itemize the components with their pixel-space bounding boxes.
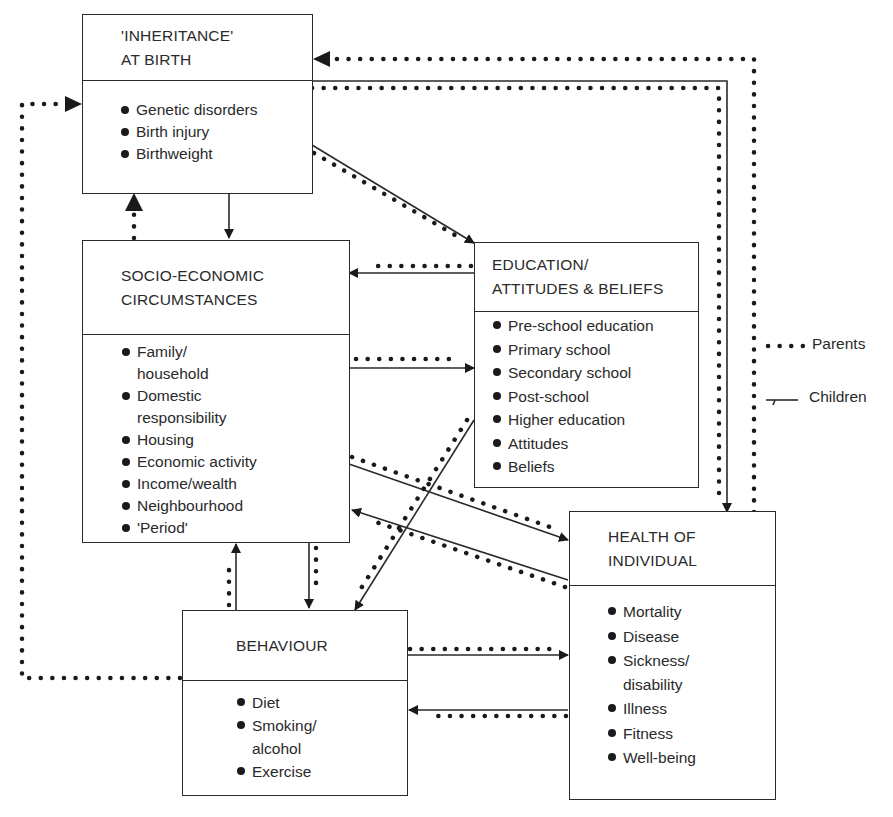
box-education-title-line1: EDUCATION/ (492, 253, 698, 277)
arrowhead-into-inheritance-bottom (125, 193, 143, 211)
list-item: 'Period' (121, 517, 349, 539)
box-education-header: EDUCATION/ ATTITUDES & BELIEFS (475, 243, 698, 312)
list-item: Domestic responsibility (121, 385, 349, 429)
list-item: Exercise (236, 760, 407, 783)
legend-children-label: Children (809, 388, 867, 406)
box-education-attitudes-beliefs: EDUCATION/ ATTITUDES & BELIEFS Pre-schoo… (474, 242, 699, 488)
list-item: Housing (121, 429, 349, 451)
box-inheritance-items: Genetic disorders Birth injury Birthweig… (83, 81, 312, 165)
list-item: Birth injury (120, 121, 312, 143)
list-item: Sickness/ disability (607, 649, 775, 697)
list-item: Primary school (492, 338, 698, 362)
legend-parents-label: Parents (812, 335, 865, 353)
box-socio-economic-circumstances: SOCIO-ECONOMIC CIRCUMSTANCES Family/ hou… (82, 240, 350, 543)
edge-inheritance-to-education-dotted (314, 153, 460, 238)
list-item: Smoking/ alcohol (236, 714, 407, 760)
box-socio-title-line2: CIRCUMSTANCES (121, 288, 349, 312)
list-item: Pre-school education (492, 314, 698, 338)
list-item: Economic activity (121, 451, 349, 473)
edge-health-to-socio-solid (352, 510, 568, 580)
arrowhead-into-inheritance-right (313, 51, 330, 67)
box-education-title-line2: ATTITUDES & BELIEFS (492, 277, 698, 301)
box-education-items: Pre-school education Primary school Seco… (475, 312, 698, 479)
legend-children: Children (809, 388, 867, 406)
box-inheritance-at-birth: 'INHERITANCE' AT BIRTH Genetic disorders… (82, 14, 313, 194)
list-item: Fitness (607, 722, 775, 747)
box-behaviour-header: BEHAVIOUR (183, 611, 407, 681)
edge-education-to-behaviour-dotted (360, 420, 467, 590)
box-socio-items: Family/ household Domestic responsibilit… (83, 335, 349, 539)
list-item: Birthweight (120, 143, 312, 165)
list-item: Diet (236, 691, 407, 714)
list-item: Family/ household (121, 341, 349, 385)
box-inheritance-title-line1: 'INHERITANCE' (121, 24, 312, 48)
box-health-title-line1: HEALTH OF (608, 525, 775, 549)
edge-education-to-behaviour-solid (355, 420, 474, 610)
box-behaviour: BEHAVIOUR Diet Smoking/ alcohol Exercise (182, 610, 408, 796)
list-item: Neighbourhood (121, 495, 349, 517)
box-behaviour-title: BEHAVIOUR (236, 634, 407, 658)
box-health-items: Mortality Disease Sickness/ disability I… (570, 586, 775, 771)
list-item: Genetic disorders (120, 99, 312, 121)
list-item: Illness (607, 697, 775, 722)
box-health-of-individual: HEALTH OF INDIVIDUAL Mortality Disease S… (569, 511, 776, 800)
list-item: Mortality (607, 600, 775, 625)
list-item: Post-school (492, 385, 698, 409)
box-inheritance-title-line2: AT BIRTH (121, 48, 312, 72)
list-item: Beliefs (492, 455, 698, 479)
box-health-header: HEALTH OF INDIVIDUAL (570, 512, 775, 586)
list-item: Secondary school (492, 361, 698, 385)
box-socio-title-line1: SOCIO-ECONOMIC (121, 264, 349, 288)
box-behaviour-items: Diet Smoking/ alcohol Exercise (183, 681, 407, 783)
box-inheritance-header: 'INHERITANCE' AT BIRTH (83, 15, 312, 81)
arrowhead-into-inheritance-left (65, 96, 82, 112)
list-item: Well-being (607, 746, 775, 771)
box-health-title-line2: INDIVIDUAL (608, 549, 775, 573)
list-item: Attitudes (492, 432, 698, 456)
legend-parents: Parents (812, 335, 865, 353)
edge-inheritance-to-education-solid (312, 145, 474, 243)
list-item: Income/wealth (121, 473, 349, 495)
box-socio-economic-header: SOCIO-ECONOMIC CIRCUMSTANCES (83, 241, 349, 335)
list-item: Higher education (492, 408, 698, 432)
list-item: Disease (607, 625, 775, 650)
